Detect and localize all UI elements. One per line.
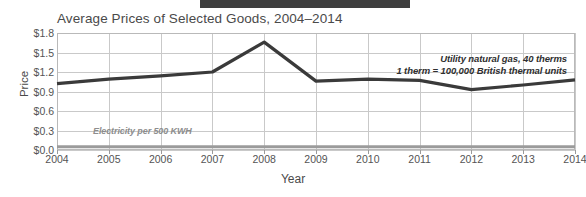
x-axis-tick-label: 2008	[253, 153, 276, 165]
x-axis-tick-label: 2013	[512, 153, 535, 165]
annotation-gas-line-2: 1 therm = 100,000 British thermal units	[396, 65, 567, 76]
x-axis-tick-label: 2005	[97, 153, 120, 165]
page-title: Average Prices of Selected Goods, 2004–2…	[57, 11, 343, 26]
gridline-vertical	[575, 33, 576, 150]
y-axis-tick-labels: $0.0$0.3$0.6$0.9$1.2$1.5$1.8	[12, 33, 54, 150]
x-axis-tick-label: 2011	[408, 153, 431, 165]
x-axis-tick-label: 2007	[201, 153, 224, 165]
x-axis-tick-label: 2014	[563, 153, 586, 165]
y-axis-tick-label: $0.3	[16, 125, 54, 137]
x-axis-tick-labels: 2004200520062007200820092010201120122013…	[57, 153, 575, 167]
x-axis-tick-label: 2012	[460, 153, 483, 165]
annotation-electricity: Electricity per 500 KWH	[93, 126, 192, 136]
top-dark-bar	[200, 0, 410, 8]
y-axis-tick-label: $0.6	[16, 105, 54, 117]
y-axis-tick-label: $1.2	[16, 66, 54, 78]
x-axis-tick-label: 2006	[149, 153, 172, 165]
y-axis-tick-label: $1.8	[16, 27, 54, 39]
x-axis-title: Year	[0, 172, 586, 186]
y-axis-tick-label: $1.5	[16, 47, 54, 59]
plot-area: Utility natural gas, 40 therms 1 therm =…	[57, 33, 575, 150]
x-axis-tick-label: 2010	[356, 153, 379, 165]
x-axis-tick-label: 2004	[45, 153, 68, 165]
chart-figure: Average Prices of Selected Goods, 2004–2…	[0, 0, 586, 197]
y-axis-tick-label: $0.9	[16, 86, 54, 98]
x-axis-tick-label: 2009	[304, 153, 327, 165]
annotation-gas-line-1: Utility natural gas, 40 therms	[440, 53, 567, 64]
